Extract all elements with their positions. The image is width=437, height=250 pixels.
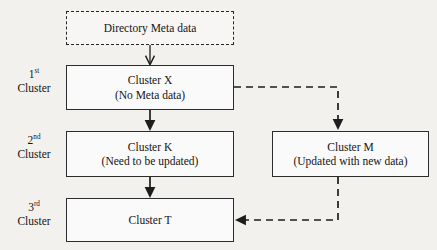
side-label-second-cluster: 2nd Cluster <box>6 134 62 162</box>
side-label-first-cluster: 1st Cluster <box>6 68 62 96</box>
side-label-first-word: Cluster <box>6 82 62 96</box>
side-label-third-cluster: 3rd Cluster <box>6 201 62 229</box>
diagram-canvas: Directory Meta data Cluster X (No Meta d… <box>0 0 437 250</box>
side-label-second-word: Cluster <box>6 148 62 162</box>
node-directory-meta-data[interactable]: Directory Meta data <box>66 11 234 45</box>
node-cluster-x[interactable]: Cluster X (No Meta data) <box>66 65 234 110</box>
node-cluster-x-title: Cluster X <box>128 73 172 87</box>
side-label-third-word: Cluster <box>6 215 62 229</box>
node-cluster-x-subtitle: (No Meta data) <box>115 88 185 102</box>
connector-cluster-x-to-cluster-m <box>234 87 338 128</box>
node-directory-meta-data-title: Directory Meta data <box>104 21 197 35</box>
node-cluster-m-subtitle: (Updated with new data) <box>293 154 407 168</box>
node-cluster-k[interactable]: Cluster K (Need to be updated) <box>66 131 234 177</box>
node-cluster-m-title: Cluster M <box>327 140 373 154</box>
node-cluster-k-title: Cluster K <box>128 140 172 154</box>
node-cluster-m[interactable]: Cluster M (Updated with new data) <box>272 131 429 177</box>
connector-cluster-m-to-cluster-t <box>237 177 338 220</box>
side-label-third-ordinal: 3rd <box>28 201 40 215</box>
side-label-second-ordinal: 2nd <box>28 134 41 148</box>
node-cluster-t[interactable]: Cluster T <box>66 198 234 242</box>
node-cluster-k-subtitle: (Need to be updated) <box>102 154 199 168</box>
side-label-first-ordinal: 1st <box>29 68 40 82</box>
node-cluster-t-title: Cluster T <box>129 213 172 227</box>
